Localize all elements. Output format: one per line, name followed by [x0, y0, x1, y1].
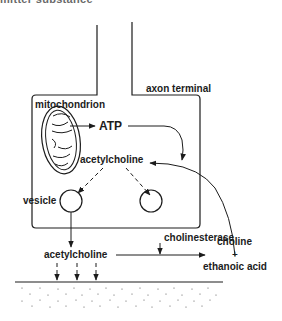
label-atp: ATP	[99, 120, 122, 132]
mitochondrion-shape	[37, 104, 84, 177]
vesicle-left	[60, 190, 82, 212]
label-ethanoic-acid: ethanoic acid	[203, 262, 267, 272]
arrow-ach-to-vesicle-left	[78, 168, 103, 193]
vesicle-right	[140, 190, 162, 212]
label-plus: +	[232, 250, 238, 260]
label-acetylcholine-cleft: acetylcholine	[44, 250, 107, 260]
label-vesicle: vesicle	[23, 196, 56, 206]
label-acetylcholine-inside: acetylcholine	[80, 155, 143, 165]
label-mitochondrion: mitochondrion	[35, 100, 105, 110]
label-choline: choline	[217, 237, 252, 247]
postsynaptic-stipple	[21, 287, 216, 307]
label-axon-terminal: axon terminal	[146, 84, 211, 94]
